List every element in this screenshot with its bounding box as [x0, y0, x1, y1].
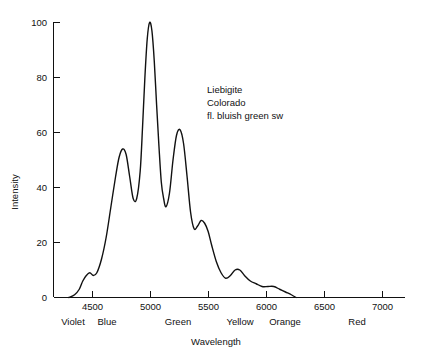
band-label-violet: Violet: [61, 316, 85, 327]
x-tick-label-4500: 4500: [82, 301, 103, 312]
y-axis-ticks: [54, 23, 61, 298]
x-axis-ticks: [93, 291, 383, 298]
band-label-orange: Orange: [269, 316, 301, 327]
color-band-labels: Violet Blue Green Yellow Orange Red: [61, 316, 366, 327]
y-axis-tick-labels: 100 80 60 40 20 0: [31, 17, 47, 303]
annotation-line-3: fl. bluish green sw: [207, 110, 283, 121]
x-tick-label-6000: 6000: [256, 301, 277, 312]
spectrum-curve: [69, 22, 296, 297]
band-label-green: Green: [165, 316, 191, 327]
band-label-yellow: Yellow: [226, 316, 253, 327]
y-tick-label-100: 100: [31, 17, 47, 28]
y-tick-label-60: 60: [36, 127, 47, 138]
x-tick-label-7000: 7000: [372, 301, 393, 312]
spectrum-chart-svg: 100 80 60 40 20 0 Intensity 4500 5000: [0, 0, 432, 356]
annotation-block: Liebigite Colorado fl. bluish green sw: [207, 84, 283, 121]
y-axis-group: 100 80 60 40 20 0 Intensity: [9, 17, 60, 303]
x-axis-tick-labels: 4500 5000 5500 6000 6500 7000: [82, 301, 393, 312]
band-label-blue: Blue: [97, 316, 116, 327]
y-tick-label-40: 40: [36, 182, 47, 193]
y-tick-label-80: 80: [36, 72, 47, 83]
y-tick-label-20: 20: [36, 237, 47, 248]
spectrum-figure: 100 80 60 40 20 0 Intensity 4500 5000: [0, 0, 432, 356]
x-axis-group: 4500 5000 5500 6000 6500 7000 Violet Blu…: [54, 291, 406, 347]
x-tick-label-6500: 6500: [314, 301, 335, 312]
y-axis-title: Intensity: [9, 174, 20, 210]
y-tick-label-0: 0: [42, 292, 47, 303]
annotation-line-2: Colorado: [207, 97, 246, 108]
x-axis-title: Wavelength: [191, 336, 241, 347]
x-tick-label-5000: 5000: [140, 301, 161, 312]
x-tick-label-5500: 5500: [198, 301, 219, 312]
band-label-red: Red: [348, 316, 365, 327]
annotation-line-1: Liebigite: [207, 84, 242, 95]
